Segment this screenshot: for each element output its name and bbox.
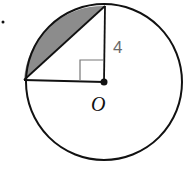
circle-segment-diagram: 4 O xyxy=(0,0,196,169)
center-point xyxy=(101,79,108,86)
radius-label: 4 xyxy=(113,38,122,57)
radius-vertical xyxy=(104,6,105,82)
right-angle-marker xyxy=(80,60,103,81)
bullet-dot xyxy=(2,21,5,24)
center-label: O xyxy=(91,93,105,115)
radius-horizontal xyxy=(24,80,104,82)
